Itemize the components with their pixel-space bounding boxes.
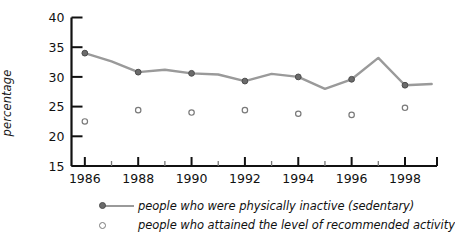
series-marker-sedentary — [189, 70, 195, 76]
series-marker-sedentary — [82, 50, 88, 56]
y-axis-tick-label: 25 — [49, 99, 65, 114]
series-marker-sedentary — [135, 69, 141, 75]
legend-item-recommended: people who attained the level of recomme… — [96, 215, 446, 234]
series-marker-recommended — [242, 107, 247, 112]
x-axis-tick-label: 1986 — [69, 171, 101, 186]
x-axis-tick-label: 1992 — [229, 171, 261, 186]
series-marker-recommended — [349, 112, 354, 117]
x-axis-tick-label: 1998 — [389, 171, 421, 186]
legend-label-sedentary: people who were physically inactive (sed… — [138, 199, 414, 213]
series-layer — [82, 50, 432, 124]
series-marker-recommended — [402, 105, 407, 110]
y-axis-tick-label: 35 — [49, 40, 65, 55]
series-marker-sedentary — [402, 82, 408, 88]
series-marker-sedentary — [242, 78, 248, 84]
legend-label-recommended: people who attained the level of recomme… — [138, 218, 455, 232]
x-axis-tick-label: 1990 — [176, 171, 208, 186]
series-marker-recommended — [82, 119, 87, 124]
x-axis-tick-label: 1988 — [122, 171, 154, 186]
line-dot-marker-icon — [96, 199, 138, 213]
series-marker-recommended — [189, 110, 194, 115]
y-axis-tick-label: 40 — [49, 10, 65, 25]
axis-layer: 1520253035401986198819901992199419961998 — [49, 10, 437, 186]
series-marker-recommended — [135, 107, 140, 112]
x-axis-tick-label: 1994 — [282, 171, 314, 186]
series-marker-recommended — [296, 111, 301, 116]
y-axis-tick-label: 15 — [49, 159, 65, 174]
y-axis-tick-label: 20 — [49, 129, 65, 144]
x-axis-tick-label: 1996 — [336, 171, 368, 186]
chart-legend: people who were physically inactive (sed… — [96, 196, 446, 234]
legend-item-sedentary: people who were physically inactive (sed… — [96, 196, 446, 215]
y-axis-tick-label: 30 — [49, 70, 65, 85]
series-marker-sedentary — [295, 74, 301, 80]
series-marker-sedentary — [349, 76, 355, 82]
open-circle-marker-icon — [96, 218, 138, 232]
